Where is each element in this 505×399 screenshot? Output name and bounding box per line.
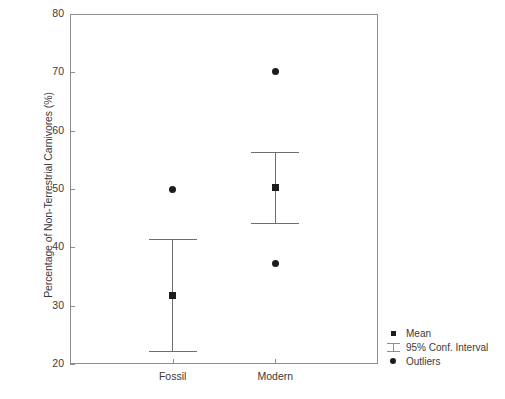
y-tick-label: 50 — [24, 182, 64, 194]
y-tick-mark — [70, 364, 75, 365]
y-tick-label: 30 — [24, 299, 64, 311]
mean-marker-fossil — [169, 292, 176, 299]
plot-data-layer — [70, 14, 378, 364]
y-tick-label: 80 — [24, 7, 64, 19]
scatter-chart-figure: Percentage of Non-Terrestrial Carnivores… — [0, 0, 505, 399]
error-bar-glyph-part — [387, 351, 400, 352]
conf-interval-cap-high-fossil — [149, 239, 197, 240]
x-tick-label-fossil: Fossil — [123, 370, 223, 382]
y-tick-label: 40 — [24, 240, 64, 252]
legend-label: Mean — [406, 328, 431, 339]
x-tick-label-modern: Modern — [225, 370, 325, 382]
conf-interval-cap-low-modern — [251, 223, 299, 224]
legend-item-outlier-circle: Outliers — [386, 354, 504, 368]
circle-icon — [386, 354, 406, 368]
outlier-marker-modern-2 — [272, 260, 279, 267]
conf-interval-cap-high-modern — [251, 152, 299, 153]
square-icon — [386, 326, 406, 340]
mean-marker-modern — [272, 184, 279, 191]
y-tick-label: 60 — [24, 124, 64, 136]
legend-item-mean-square: Mean — [386, 326, 504, 340]
chart-legend: Mean95% Conf. IntervalOutliers — [386, 326, 504, 368]
square-glyph — [391, 331, 396, 336]
outlier-marker-modern-1 — [272, 68, 279, 75]
legend-label: 95% Conf. Interval — [406, 342, 488, 353]
conf-interval-cap-low-fossil — [149, 351, 197, 352]
circle-glyph — [390, 358, 396, 364]
y-tick-label: 70 — [24, 65, 64, 77]
legend-label: Outliers — [406, 356, 440, 367]
error-bar-icon — [386, 340, 406, 354]
error-bar-glyph-part — [387, 343, 400, 344]
y-tick-label: 20 — [24, 357, 64, 369]
outlier-marker-fossil-1 — [169, 186, 176, 193]
legend-item-conf-interval-bar: 95% Conf. Interval — [386, 340, 504, 354]
